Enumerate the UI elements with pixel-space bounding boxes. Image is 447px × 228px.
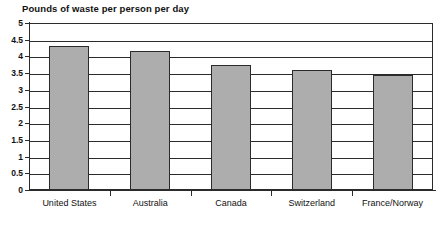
- y-axis-label: 4: [0, 51, 23, 61]
- bar: [49, 46, 89, 190]
- bar: [292, 70, 332, 190]
- x-axis-label: United States: [29, 199, 110, 209]
- x-axis-tick: [271, 191, 272, 196]
- y-axis-label-text: 2: [18, 119, 23, 128]
- y-axis-label-text: 1.5: [11, 136, 23, 145]
- y-axis-label-text: 3.5: [11, 69, 23, 78]
- y-axis-label-text: 0: [18, 186, 23, 195]
- x-axis-tick: [110, 191, 111, 196]
- y-axis-label-text: 5: [18, 19, 23, 28]
- y-axis-label: 0.5: [0, 168, 23, 178]
- bar: [373, 75, 413, 190]
- bar-chart: Pounds of waste per person per day 54.54…: [0, 0, 447, 228]
- bar-series: [29, 23, 433, 190]
- y-axis-label-text: 4.5: [11, 36, 23, 45]
- chart-title: Pounds of waste per person per day: [22, 3, 189, 14]
- x-axis-label: Switzerland: [271, 199, 352, 209]
- y-axis-label-text: 3: [18, 86, 23, 95]
- y-axis-label: 5: [0, 18, 23, 28]
- bar: [130, 51, 170, 190]
- bar: [211, 65, 251, 190]
- y-axis-label: 4.5: [0, 35, 23, 45]
- x-axis-tick: [352, 191, 353, 196]
- x-axis-line: [25, 190, 436, 191]
- y-axis-label: 3: [0, 85, 23, 95]
- y-axis-label-text: 0.5: [11, 169, 23, 178]
- y-axis-label: 2: [0, 118, 23, 128]
- y-axis-label-text: 4: [18, 52, 23, 61]
- y-axis-label: 1.5: [0, 135, 23, 145]
- x-axis-tick: [191, 191, 192, 196]
- x-axis-label: France/Norway: [352, 199, 433, 209]
- x-axis-label: Australia: [110, 199, 191, 209]
- y-axis-label: 3.5: [0, 68, 23, 78]
- x-axis-label: Canada: [191, 199, 272, 209]
- y-axis-label-text: 1: [18, 153, 23, 162]
- y-axis-label: 2.5: [0, 102, 23, 112]
- y-axis-label: 0: [0, 185, 23, 195]
- y-axis-label: 1: [0, 152, 23, 162]
- y-axis-label-text: 2.5: [11, 103, 23, 112]
